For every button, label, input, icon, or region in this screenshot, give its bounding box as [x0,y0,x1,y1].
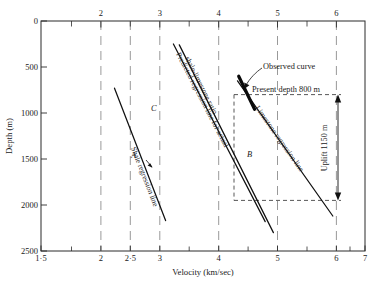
bottom-label-6: 6 [334,253,338,263]
y-label-0: 0 [34,16,38,26]
bottom-label-5: 5 [275,253,279,263]
annotation-uplift: Uplift 1150 m [320,124,329,171]
marker-label-b: B [247,150,252,159]
top-axis-labels: 2 3 4 5 6 [99,8,339,18]
x-axis-title: Velocity (km/sec) [172,267,234,277]
bottom-label-2: 2·5 [125,253,136,263]
bottom-axis-labels: 1·5 2 2·5 3 4 5 6 7 [35,253,367,263]
curve-a-marker-tick [146,160,153,168]
uplift-arrowhead-bottom [335,193,341,201]
marker-label-a: A [130,151,137,160]
y-label-1500: 1500 [21,154,38,164]
y-axis-labels: 0 500 1000 1500 2000 2500 [21,16,38,256]
uplift-arrow [335,95,341,201]
leader-line [246,68,263,86]
marker-label-c: C [151,104,157,113]
y-label-500: 500 [25,62,38,72]
uplift-arrowhead-top [335,95,341,103]
label-limestone-regression-line: Limestone regression line [253,104,306,174]
chart-svg: 2 3 4 5 6 1·5 2 2·5 3 4 5 6 7 Velocity (… [0,0,377,292]
bottom-label-1: 2 [99,253,103,263]
annotation-present-depth: Present depth 800 m [252,85,321,94]
annotation-observed-curve: Observed curve [263,62,316,71]
top-label-2: 4 [217,8,222,18]
bottom-axis-ticks [41,246,365,252]
bottom-label-7: 7 [363,253,367,263]
plot-frame [41,21,365,251]
top-axis-ticks [72,21,337,28]
y-label-2000: 2000 [21,200,38,210]
y-label-2500: 2500 [21,246,38,256]
top-label-0: 2 [99,8,103,18]
bottom-label-4: 4 [217,253,222,263]
top-label-4: 6 [334,8,338,18]
bottom-label-3: 3 [158,253,162,263]
y-label-1000: 1000 [21,108,38,118]
y-axis-ticks [41,21,47,251]
chart-figure: 2 3 4 5 6 1·5 2 2·5 3 4 5 6 7 Velocity (… [0,0,377,292]
label-predicted-line-1: Predicted regression line for actual [174,51,231,149]
top-label-3: 5 [275,8,279,18]
marker-tick-a-head [148,163,153,168]
top-label-1: 3 [158,8,162,18]
y-axis-title: Depth (m) [4,118,14,154]
